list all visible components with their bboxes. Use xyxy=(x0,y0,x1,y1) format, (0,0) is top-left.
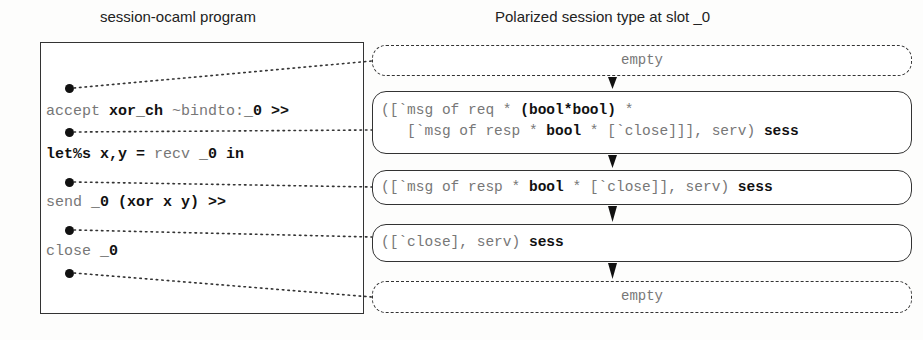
arrow-down-icons xyxy=(608,77,617,279)
connector-lines xyxy=(0,0,923,340)
